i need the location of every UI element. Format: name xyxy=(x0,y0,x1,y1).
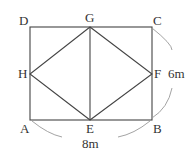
label-e: E xyxy=(86,121,94,136)
height-arc-bottom xyxy=(152,88,172,118)
label-b: B xyxy=(153,121,162,136)
rectangle-abcd xyxy=(30,27,152,120)
label-width: 8m xyxy=(82,136,99,151)
rhombus-efgh xyxy=(30,27,152,120)
width-arc-right xyxy=(118,121,150,137)
label-f: F xyxy=(154,66,161,81)
label-height: 6m xyxy=(168,66,185,81)
geometry-diagram: D G C H F 6m A E B 8m xyxy=(0,0,190,152)
label-h: H xyxy=(18,66,27,81)
label-a: A xyxy=(20,121,30,136)
width-arc-left xyxy=(32,121,62,137)
label-d: D xyxy=(19,13,28,28)
label-c: C xyxy=(153,13,162,28)
height-arc-top xyxy=(152,28,172,50)
label-g: G xyxy=(85,10,94,25)
